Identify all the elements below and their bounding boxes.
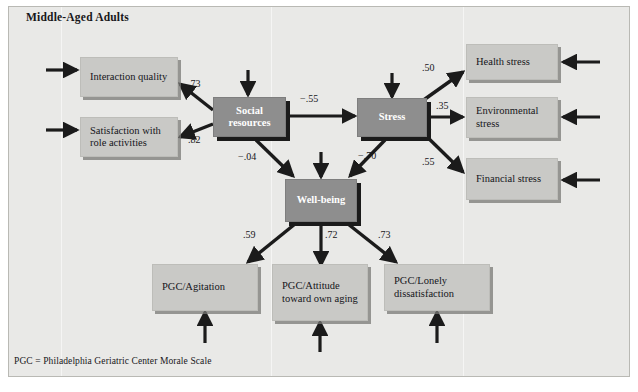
coefficient-stress-to-environmental-stress: .35 <box>436 100 449 111</box>
node-well-being-label: Well-being <box>297 194 345 206</box>
node-social-resources[interactable]: Social resources <box>213 97 286 137</box>
node-environmental-stress-label: Environmental stress <box>476 105 548 130</box>
node-well-being[interactable]: Well-being <box>285 179 357 222</box>
scan-band <box>463 7 464 376</box>
node-pgc-attitude-label: PGC/Attitude toward own aging <box>282 280 358 305</box>
coefficient-sr-to-stress: −.55 <box>300 93 318 104</box>
scan-band <box>61 7 62 376</box>
node-stress[interactable]: Stress <box>357 98 427 137</box>
node-interaction-quality-label: Interaction quality <box>90 71 167 83</box>
coefficient-stress-to-financial-stress: .55 <box>422 156 435 167</box>
node-satisfaction-role-label: Satisfaction with role activities <box>90 125 168 150</box>
figure-page: Middle-Aged Adults PGC = Philadelphia Ge… <box>0 0 638 392</box>
node-health-stress-label: Health stress <box>476 56 530 68</box>
node-financial-stress[interactable]: Financial stress <box>466 158 558 200</box>
node-pgc-agitation-label: PGC/Agitation <box>162 281 225 293</box>
node-interaction-quality[interactable]: Interaction quality <box>80 57 178 97</box>
node-satisfaction-role[interactable]: Satisfaction with role activities <box>80 117 178 157</box>
node-pgc-lonely[interactable]: PGC/Lonely dissatisfaction <box>384 264 490 311</box>
node-environmental-stress[interactable]: Environmental stress <box>466 97 558 138</box>
coefficient-stress-to-health-stress: .50 <box>422 62 435 73</box>
node-pgc-agitation[interactable]: PGC/Agitation <box>152 264 258 311</box>
node-stress-label: Stress <box>379 111 406 123</box>
node-health-stress[interactable]: Health stress <box>466 44 558 80</box>
coefficient-sr-to-well-being: −.04 <box>238 151 256 162</box>
node-social-resources-label: Social resources <box>218 105 281 130</box>
figure-title: Middle-Aged Adults <box>26 11 129 23</box>
coefficient-wb-to-pgc-agitation: .59 <box>243 229 256 240</box>
coefficient-wb-to-pgc-attitude: .72 <box>325 229 338 240</box>
figure-note: PGC = Philadelphia Geriatric Center Mora… <box>14 356 211 366</box>
node-pgc-attitude[interactable]: PGC/Attitude toward own aging <box>272 264 368 321</box>
node-pgc-lonely-label: PGC/Lonely dissatisfaction <box>394 275 480 300</box>
node-financial-stress-label: Financial stress <box>476 173 541 185</box>
coefficient-wb-to-pgc-lonely: .73 <box>378 229 391 240</box>
coefficient-sr-to-interaction-quality: .73 <box>188 78 201 89</box>
coefficient-sr-to-satisfaction-role: .82 <box>188 134 201 145</box>
coefficient-stress-to-well-being: −.70 <box>358 150 376 161</box>
